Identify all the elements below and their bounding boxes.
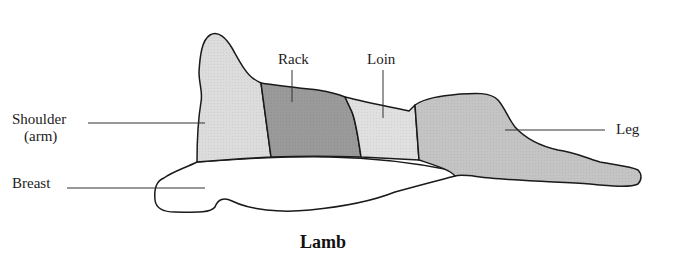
texture-rack <box>261 83 361 157</box>
label-shoulder-arm: (arm) <box>24 128 57 145</box>
texture-shoulder <box>197 33 271 162</box>
diagram-title: Lamb <box>300 232 346 252</box>
label-breast: Breast <box>12 175 51 191</box>
label-rack: Rack <box>278 51 309 67</box>
label-leg: Leg <box>616 121 640 137</box>
label-loin: Loin <box>367 51 396 67</box>
label-shoulder: Shoulder <box>12 111 66 127</box>
lamb-cuts-diagram: Shoulder (arm) Breast Rack Loin Leg Lamb <box>0 0 673 255</box>
cut-breast[interactable] <box>155 157 456 213</box>
